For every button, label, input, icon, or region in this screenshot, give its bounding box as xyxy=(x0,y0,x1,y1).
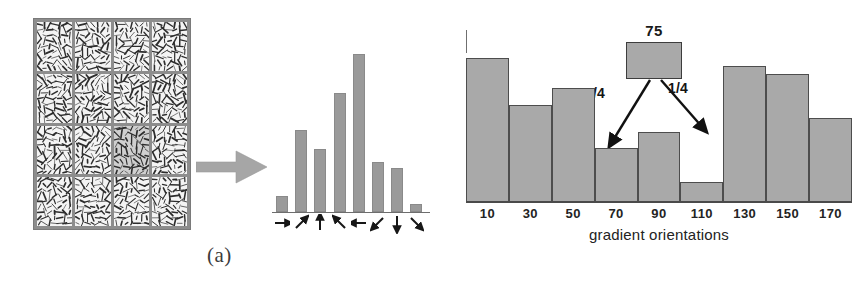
x-tick-label: 110 xyxy=(680,206,723,221)
histogram-bar xyxy=(766,74,809,202)
orientation-arrow-axis xyxy=(272,214,432,236)
gradient-cell xyxy=(114,177,149,226)
orientation-bar xyxy=(391,168,403,212)
gradient-cell xyxy=(152,126,187,175)
callout-box xyxy=(626,42,682,79)
gradient-cell xyxy=(75,177,110,226)
orientation-bar xyxy=(410,204,422,212)
arrow-down-left xyxy=(370,214,386,234)
x-tick-label: 130 xyxy=(723,206,766,221)
x-axis-tick-labels: 1030507090110130150170 xyxy=(466,206,852,226)
histogram-bar xyxy=(723,66,766,202)
gradient-cell xyxy=(75,126,110,175)
orientation-bar xyxy=(276,196,288,212)
x-tick-label: 70 xyxy=(595,206,638,221)
x-tick-label: 10 xyxy=(466,206,509,221)
x-tick-label: 170 xyxy=(809,206,852,221)
x-tick-label: 150 xyxy=(766,206,809,221)
panel-a: (a) xyxy=(0,0,440,284)
orientation-histogram-panel-a xyxy=(272,48,432,213)
x-tick-label: 50 xyxy=(552,206,595,221)
gradient-cell xyxy=(37,177,72,226)
orientation-bar xyxy=(372,162,384,212)
gradient-cell xyxy=(37,22,72,71)
gradient-cell xyxy=(152,22,187,71)
arrow-down xyxy=(389,214,405,234)
panel-a-label: (a) xyxy=(207,243,232,268)
image-gradients-grid xyxy=(33,18,191,230)
arrow-down-right xyxy=(408,214,424,234)
orientation-bar xyxy=(334,93,346,212)
arrow-right xyxy=(274,214,290,234)
arrow-up-left xyxy=(332,214,348,234)
split-weight-right-label: 1/4 xyxy=(668,80,688,96)
orientation-bar xyxy=(353,54,365,212)
orientation-bar xyxy=(295,130,307,212)
histogram-bar xyxy=(809,118,852,203)
x-axis-line xyxy=(466,201,852,203)
figure-root: (a) 75 3/4 1/4 1030507090110130150170 gr… xyxy=(0,0,862,284)
histogram-bar xyxy=(680,182,723,202)
x-axis-title: gradient orientations xyxy=(466,226,852,243)
gradient-cell xyxy=(75,74,110,123)
orientation-histogram-baseline xyxy=(272,212,430,213)
histogram-bar xyxy=(595,148,638,202)
x-tick-label: 90 xyxy=(638,206,681,221)
histogram-bar xyxy=(509,105,552,202)
gradient-orientation-histogram: 75 3/4 1/4 xyxy=(466,30,852,202)
gradient-cell xyxy=(114,22,149,71)
histogram-bar xyxy=(638,132,681,202)
x-tick-label: 30 xyxy=(509,206,552,221)
gradient-cell xyxy=(152,177,187,226)
arrow-up xyxy=(312,214,328,234)
arrow-up-right xyxy=(293,214,309,234)
histogram-bar xyxy=(552,88,595,202)
orientation-bar xyxy=(314,149,326,212)
block-arrow-right-icon xyxy=(196,148,268,186)
callout-value-label: 75 xyxy=(626,22,682,39)
gradient-cell xyxy=(152,74,187,123)
panel-b: 75 3/4 1/4 1030507090110130150170 gradie… xyxy=(440,0,862,284)
gradient-cell xyxy=(37,126,72,175)
histogram-bar xyxy=(466,58,509,202)
gradient-cell xyxy=(75,22,110,71)
arrow-left xyxy=(351,214,367,234)
gradient-cell xyxy=(114,126,149,175)
gradient-cell xyxy=(37,74,72,123)
gradient-cell xyxy=(114,74,149,123)
